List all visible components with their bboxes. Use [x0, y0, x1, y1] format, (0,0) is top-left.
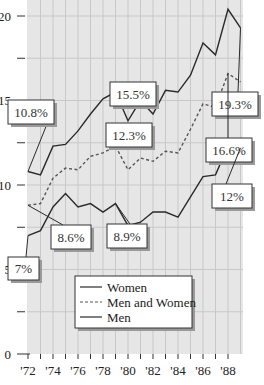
legend: WomenMen and WomenMen	[75, 276, 196, 331]
callout-text: 8.9%	[113, 229, 140, 244]
x-tick-label: '88	[220, 363, 235, 378]
y-tick-label: 10	[0, 178, 11, 193]
x-tick-label: '78	[95, 363, 110, 378]
legend-label: Men	[107, 310, 131, 325]
x-tick-label: '74	[45, 363, 61, 378]
x-tick-label: '86	[195, 363, 211, 378]
x-tick-label: '76	[70, 363, 86, 378]
legend-label: Women	[107, 280, 148, 295]
x-tick-label: '82	[145, 363, 160, 378]
callout-text: 12%	[220, 189, 244, 204]
callout-text: 16.6%	[212, 143, 246, 158]
x-tick-label: '72	[20, 363, 35, 378]
legend-label: Men and Women	[107, 295, 196, 310]
callout-text: 7%	[15, 261, 33, 276]
callout-15-5pct: 15.5%	[110, 82, 159, 109]
callout-text: 12.3%	[112, 128, 146, 143]
x-tick-label: '84	[170, 363, 186, 378]
y-tick-label: 0	[5, 347, 12, 362]
callout-text: 10.8%	[14, 105, 48, 120]
y-tick-label: 20	[0, 9, 11, 24]
callout-text: 19.3%	[218, 97, 252, 112]
callout-text: 8.6%	[57, 230, 84, 245]
callout-text: 15.5%	[116, 87, 150, 102]
callout-12-3pct: 12.3%	[106, 123, 155, 150]
x-tick-label: '80	[120, 363, 135, 378]
line-chart: 05101520'72'74'76'78'80'82'84'86'88 19.3…	[0, 0, 264, 385]
